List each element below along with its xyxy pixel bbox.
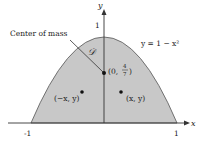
center-of-mass-label: Center of mass: [10, 29, 68, 38]
x-axis-label: x: [191, 119, 196, 128]
y-tick-1: 1: [95, 21, 100, 30]
right-point: [119, 90, 123, 94]
right-point-label: (x, y): [126, 94, 145, 103]
center-of-mass-point: [102, 71, 106, 75]
center-point-den: 7: [123, 71, 127, 77]
left-point: [80, 90, 84, 94]
center-point-prefix: (0,: [108, 67, 118, 76]
center-of-mass-diagram: x y -1 1 1 y = 1 − x² 𝒟 Center of mass (…: [0, 0, 204, 144]
x-tick-1: 1: [174, 129, 179, 138]
y-axis-label: y: [97, 1, 103, 10]
curve-label: y = 1 − x²: [140, 39, 179, 48]
left-point-label: (−x, y): [54, 94, 79, 103]
center-point-suffix: ): [129, 67, 132, 76]
x-axis-arrow-icon: [184, 121, 190, 126]
x-tick-neg1: -1: [24, 129, 31, 138]
center-point-num: 4: [123, 63, 127, 69]
